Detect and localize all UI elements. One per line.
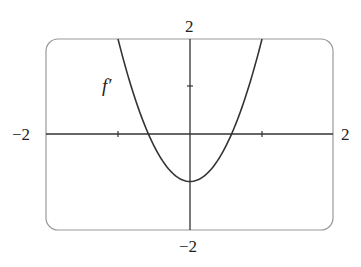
- x-min-label: −2: [12, 126, 30, 143]
- y-max-label: 2: [185, 18, 194, 35]
- x-max-label: 2: [341, 126, 350, 143]
- y-min-label: −2: [179, 238, 197, 255]
- chart-canvas: [0, 0, 361, 267]
- curve-label: f′: [102, 76, 111, 95]
